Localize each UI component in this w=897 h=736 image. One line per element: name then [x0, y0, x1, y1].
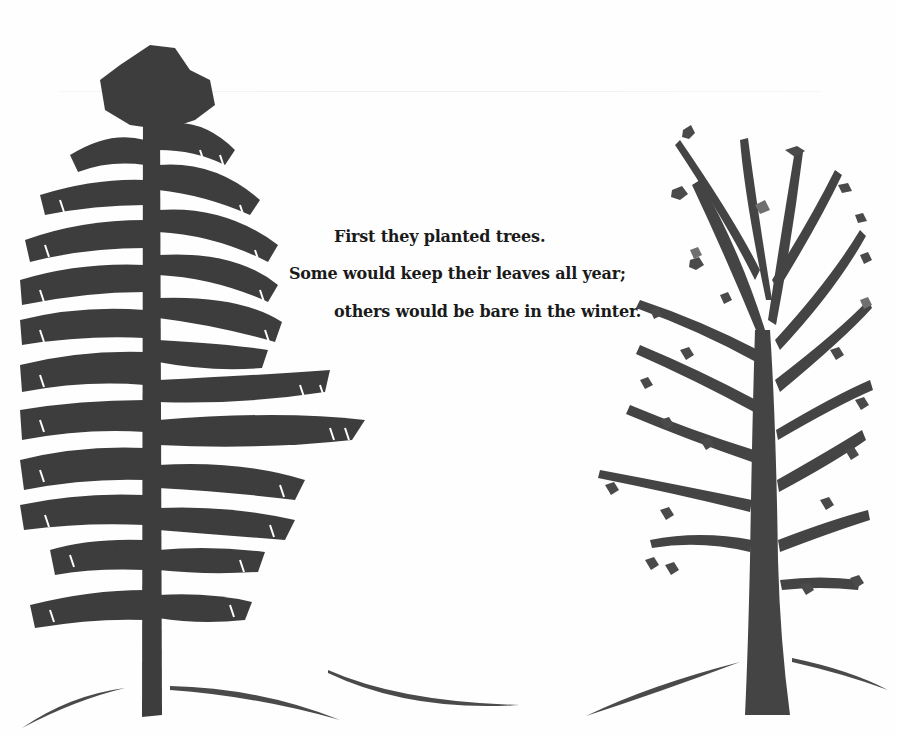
story-text-line-2: Some would keep their leaves all year; [289, 264, 626, 283]
evergreen-tree-icon [20, 45, 365, 717]
illustration [0, 0, 897, 736]
deciduous-tree-icon [598, 138, 873, 715]
book-page: First they planted trees. Some would kee… [0, 0, 897, 736]
story-text-line-1: First they planted trees. [334, 227, 545, 246]
story-text-line-3: others would be bare in the winter. [334, 302, 641, 321]
